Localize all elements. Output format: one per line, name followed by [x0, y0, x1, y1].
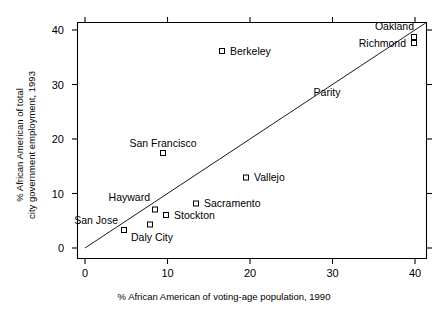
y-axis-title: % African American of totalcity governme…: [14, 35, 38, 255]
parity-line-label: Parity: [314, 86, 342, 98]
data-point-marker: [148, 222, 153, 227]
point-label-stockton: Stockton: [174, 209, 215, 221]
x-tick-label-10: 10: [161, 267, 173, 279]
y-tick-label-40: 40: [52, 24, 64, 36]
x-axis-ticks-top: [85, 17, 415, 23]
data-point-marker: [161, 151, 166, 156]
y-axis-ticks-right: [427, 30, 433, 248]
y-tick-label-20: 20: [52, 133, 64, 145]
data-point-marker: [412, 41, 417, 46]
point-label-sacramento: Sacramento: [204, 197, 261, 209]
point-label-berkeley: Berkeley: [230, 45, 272, 57]
data-point-marker: [153, 207, 158, 212]
point-label-hayward: Hayward: [109, 191, 151, 203]
data-point-marker: [244, 175, 249, 180]
point-label-vallejo: Vallejo: [254, 171, 285, 183]
x-axis-title: % African American of voting-age populat…: [0, 291, 448, 303]
data-point-marker: [164, 213, 169, 218]
point-label-richmond: Richmond: [359, 37, 406, 49]
data-point-marker: [194, 201, 199, 206]
point-label-san-jose: San Jose: [74, 214, 118, 226]
y-tick-label-30: 30: [52, 79, 64, 91]
scatter-chart-figure: 0 10 20 30 40 0 10 20 30 40 Parity Oakla…: [0, 0, 448, 315]
x-tick-label-40: 40: [409, 267, 421, 279]
y-tick-label-0: 0: [58, 242, 64, 254]
point-label-oakland: Oakland: [375, 20, 414, 32]
x-tick-label-20: 20: [244, 267, 256, 279]
y-axis-title-line1: % African American of total: [14, 88, 25, 202]
point-label-daly-city: Daly City: [131, 231, 174, 243]
x-tick-label-0: 0: [82, 267, 88, 279]
x-axis-ticks: [85, 259, 415, 265]
data-point-marker: [412, 35, 417, 40]
point-label-san-francisco: San Francisco: [129, 137, 196, 149]
x-tick-label-30: 30: [326, 267, 338, 279]
data-point-marker: [220, 49, 225, 54]
plot-canvas: 0 10 20 30 40 0 10 20 30 40 Parity Oakla…: [0, 0, 448, 315]
y-tick-label-10: 10: [52, 188, 64, 200]
y-axis-title-line2: city government employment, 1993: [26, 71, 37, 219]
data-point-marker: [122, 228, 127, 233]
data-points: [122, 35, 417, 233]
